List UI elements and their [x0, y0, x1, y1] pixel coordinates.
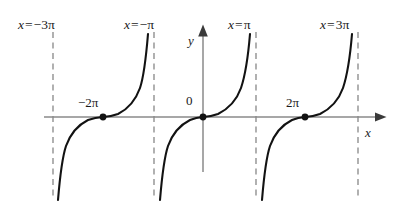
asymptote-label-3pi: x=3π — [320, 18, 349, 32]
asymptote-label-pi-value: π — [244, 17, 251, 32]
asymptote-label-3pi-eq: = — [326, 17, 336, 32]
asymptote-label-neg3pi: x=−3π — [18, 18, 55, 32]
tick-label-neg2pi: −2π — [78, 96, 98, 109]
x-axis-label: x — [365, 126, 371, 139]
asymptote-label-neg3pi-eq: = — [24, 17, 34, 32]
asymptote-label-negpi-value: −π — [140, 17, 154, 32]
zero-point-origin — [200, 114, 207, 121]
zero-point-neg2pi — [100, 114, 107, 121]
asymptote-label-pi: x=π — [228, 18, 250, 32]
y-axis-label: y — [188, 34, 194, 47]
tick-label-origin: 0 — [186, 94, 193, 107]
zero-point-2pi — [302, 114, 309, 121]
function-graph-figure: x=−3π x=−π x=π x=3π −2π 0 2π y x — [0, 0, 402, 206]
asymptote-label-negpi: x=−π — [124, 18, 154, 32]
asymptote-label-neg3pi-value: −3π — [34, 17, 55, 32]
asymptote-label-3pi-value: 3π — [336, 17, 350, 32]
tick-label-2pi: 2π — [286, 96, 299, 109]
asymptote-label-negpi-eq: = — [130, 17, 140, 32]
asymptote-label-pi-eq: = — [234, 17, 244, 32]
